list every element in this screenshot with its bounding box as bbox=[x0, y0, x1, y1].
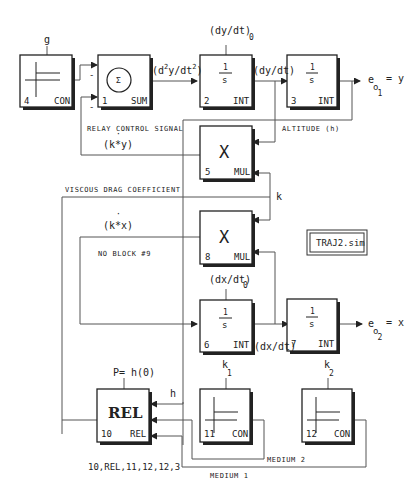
block-4-con[interactable]: 4 CON bbox=[20, 55, 75, 110]
block-number: 12 bbox=[306, 429, 317, 439]
title-box: TRAJ2.sim bbox=[307, 230, 367, 255]
svg-text:0: 0 bbox=[249, 33, 254, 42]
block-3-int[interactable]: 1 s 3 INT bbox=[287, 55, 340, 110]
output-e02: eo2= x bbox=[368, 317, 404, 342]
svg-text:0: 0 bbox=[243, 281, 248, 290]
multiply-icon: X bbox=[219, 142, 230, 162]
block-type: SUM bbox=[131, 96, 148, 106]
label-no-block-9: NO BLOCK #9 bbox=[98, 250, 151, 258]
signal-d2ydt2: (d2y/dt2) bbox=[152, 63, 203, 76]
signal-dydt: (dy/dt) bbox=[253, 65, 295, 76]
fraction-denominator: s bbox=[222, 320, 227, 330]
block-12-con[interactable]: 12 CON bbox=[302, 389, 355, 445]
signal-k-xdot: (k*x) bbox=[103, 220, 133, 231]
param-g: g bbox=[44, 34, 50, 45]
rel-config-string: 10,REL,11,12,12,3 bbox=[88, 462, 180, 472]
minus-sign-2: - bbox=[89, 102, 94, 112]
block-type: CON bbox=[54, 96, 70, 106]
block-10-rel[interactable]: REL 10 REL bbox=[97, 389, 152, 445]
label-medium-1: MEDIUM 1 bbox=[210, 472, 249, 480]
block-type: CON bbox=[334, 429, 350, 439]
block-number: 4 bbox=[24, 96, 29, 106]
fraction-numerator: 1 bbox=[223, 63, 228, 72]
block-2-int[interactable]: 1 s 2 INT bbox=[200, 55, 255, 110]
block-number: 5 bbox=[205, 167, 210, 177]
block-5-mul[interactable]: X 5 MUL bbox=[200, 126, 255, 182]
block-type: INT bbox=[318, 96, 335, 106]
block-11-con[interactable]: 11 CON bbox=[200, 389, 253, 445]
block-type: INT bbox=[233, 340, 250, 350]
block-type: CON bbox=[232, 429, 248, 439]
block-1-sum[interactable]: Σ 1 SUM bbox=[98, 55, 153, 110]
fraction-numerator: 1 bbox=[310, 63, 315, 72]
block-type: INT bbox=[318, 339, 335, 349]
param-dydt0: (dy/dt) bbox=[209, 25, 251, 36]
block-diagram: 4 CON g Σ 1 SUM - - 1 s 2 INT (dy/dt) 0 … bbox=[0, 0, 420, 501]
block-number: 6 bbox=[204, 340, 209, 350]
svg-text:·: · bbox=[116, 210, 121, 219]
rel-label: REL bbox=[108, 404, 143, 422]
fraction-numerator: 1 bbox=[310, 307, 315, 316]
param-k2: k2 bbox=[324, 359, 334, 378]
multiply-icon: X bbox=[219, 227, 230, 247]
block-number: 11 bbox=[204, 429, 215, 439]
signal-dxdt: (dx/dt) bbox=[254, 341, 296, 352]
label-viscous-drag-coefficient: VISCOUS DRAG COEFFICIENT bbox=[65, 186, 181, 194]
fraction-denominator: s bbox=[309, 319, 314, 329]
block-number: 3 bbox=[291, 96, 296, 106]
minus-sign-1: - bbox=[89, 70, 94, 80]
block-8-mul[interactable]: X 8 MUL bbox=[200, 211, 255, 267]
svg-text:·: · bbox=[116, 130, 121, 139]
block-type: MUL bbox=[234, 167, 250, 177]
signal-h: h bbox=[170, 388, 176, 399]
fraction-denominator: s bbox=[309, 75, 314, 85]
block-type: REL bbox=[130, 429, 146, 439]
block-number: 8 bbox=[205, 252, 210, 262]
block-number: 2 bbox=[204, 96, 209, 106]
fraction-numerator: 1 bbox=[223, 308, 228, 317]
param-p-h0: P= h(0) bbox=[113, 367, 155, 378]
output-e01: eo1= y bbox=[368, 73, 404, 98]
block-number: 10 bbox=[101, 429, 112, 439]
title-filename: TRAJ2.sim bbox=[316, 238, 365, 248]
signal-k: k bbox=[276, 191, 282, 202]
block-type: INT bbox=[233, 96, 250, 106]
block-6-int[interactable]: 1 s 6 INT bbox=[200, 300, 255, 355]
param-k1: k1 bbox=[222, 359, 232, 378]
label-medium-2: MEDIUM 2 bbox=[267, 456, 306, 464]
fraction-denominator: s bbox=[222, 75, 227, 85]
signal-k-ydot: (k*y) bbox=[103, 139, 133, 150]
label-relay-control-signal: RELAY CONTROL SIGNAL bbox=[87, 125, 183, 133]
label-altitude: ALTITUDE (h) bbox=[282, 125, 340, 133]
block-type: MUL bbox=[234, 252, 250, 262]
sigma-icon: Σ bbox=[116, 76, 121, 85]
block-number: 1 bbox=[102, 96, 107, 106]
